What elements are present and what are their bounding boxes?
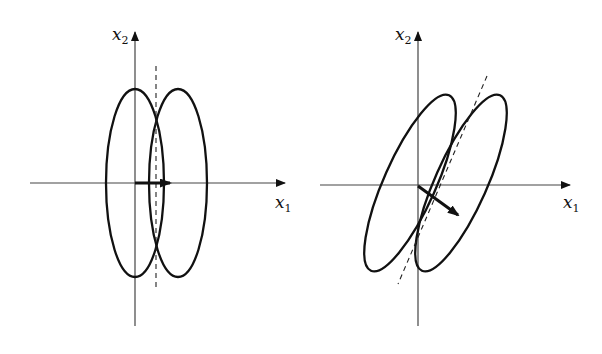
x1-label: x1 <box>275 192 292 215</box>
x2-label: x2 <box>112 24 129 47</box>
left-panel: x2 x1 <box>30 24 292 326</box>
figure: x2 x1 x2 x1 <box>0 0 602 354</box>
dashed-boundary <box>398 76 487 284</box>
left-ellipse <box>347 85 473 282</box>
right-panel: x2 x1 <box>320 24 580 326</box>
right-ellipse <box>398 85 524 282</box>
x1-label: x1 <box>563 192 580 215</box>
x2-label: x2 <box>395 24 412 47</box>
